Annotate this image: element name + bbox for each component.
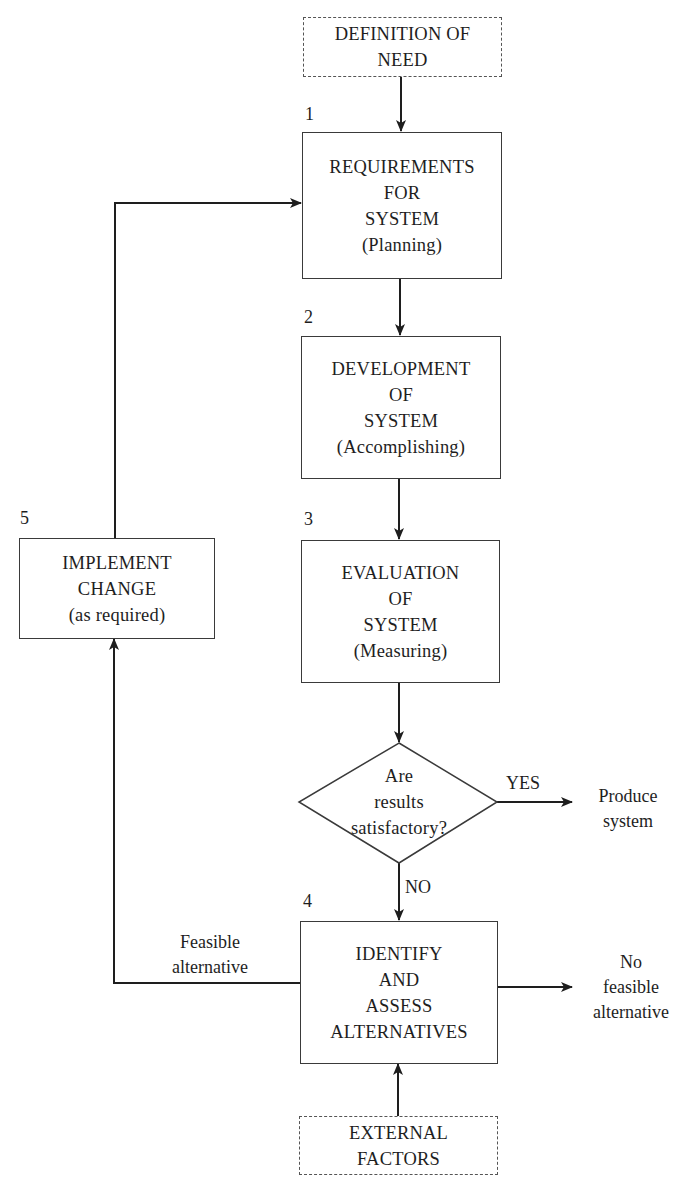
node-text: OF bbox=[388, 586, 412, 612]
node-text: FACTORS bbox=[357, 1146, 440, 1172]
node-text: SYSTEM bbox=[363, 612, 437, 638]
identify-alternatives-box: IDENTIFY AND ASSESS ALTERNATIVES bbox=[300, 921, 498, 1064]
node-text: results bbox=[374, 789, 424, 815]
label-line: system bbox=[580, 809, 676, 834]
node-text: SYSTEM bbox=[364, 408, 438, 434]
no-label: NO bbox=[405, 875, 431, 900]
external-factors-box: EXTERNAL FACTORS bbox=[299, 1116, 498, 1175]
feasible-alternative-label: Feasible alternative bbox=[155, 930, 265, 980]
no-feasible-alternative-label: No feasible alternative bbox=[576, 950, 686, 1025]
step-number-2: 2 bbox=[304, 307, 313, 328]
node-text: ALTERNATIVES bbox=[330, 1019, 467, 1045]
node-text: (Measuring) bbox=[354, 638, 448, 664]
label-line: Feasible bbox=[155, 930, 265, 955]
node-text: EXTERNAL bbox=[349, 1120, 448, 1146]
node-text: NEED bbox=[377, 47, 427, 73]
node-text: satisfactory? bbox=[351, 815, 447, 841]
node-text: (as required) bbox=[69, 602, 166, 628]
node-text: IDENTIFY bbox=[356, 941, 443, 967]
label-line: feasible bbox=[576, 975, 686, 1000]
label-line: alternative bbox=[576, 1000, 686, 1025]
node-text: FOR bbox=[384, 180, 421, 206]
arrow-implement-to-requirements bbox=[115, 203, 301, 538]
yes-label: YES bbox=[506, 771, 540, 796]
node-text: Are bbox=[385, 763, 413, 789]
requirements-box: REQUIREMENTS FOR SYSTEM (Planning) bbox=[302, 132, 502, 279]
node-text: REQUIREMENTS bbox=[329, 154, 474, 180]
node-text: (Accomplishing) bbox=[337, 434, 465, 460]
label-line: alternative bbox=[155, 955, 265, 980]
produce-system-label: Produce system bbox=[580, 784, 676, 834]
node-text: DEFINITION OF bbox=[335, 21, 471, 47]
label-line: Produce bbox=[580, 784, 676, 809]
step-number-3: 3 bbox=[304, 509, 313, 530]
node-text: CHANGE bbox=[78, 576, 156, 602]
definition-of-need-box: DEFINITION OF NEED bbox=[303, 17, 502, 77]
node-text: (Planning) bbox=[362, 232, 442, 258]
node-text: OF bbox=[389, 382, 413, 408]
node-text: EVALUATION bbox=[342, 560, 460, 586]
label-line: No bbox=[576, 950, 686, 975]
node-text: AND bbox=[379, 967, 420, 993]
node-text: IMPLEMENT bbox=[62, 550, 172, 576]
decision-text: Are results satisfactory? bbox=[309, 763, 489, 841]
node-text: ASSESS bbox=[365, 993, 432, 1019]
step-number-4: 4 bbox=[303, 891, 312, 912]
step-number-5: 5 bbox=[20, 508, 29, 529]
evaluation-box: EVALUATION OF SYSTEM (Measuring) bbox=[301, 540, 500, 683]
step-number-1: 1 bbox=[305, 104, 314, 125]
node-text: SYSTEM bbox=[365, 206, 439, 232]
development-box: DEVELOPMENT OF SYSTEM (Accomplishing) bbox=[301, 336, 501, 479]
implement-change-box: IMPLEMENT CHANGE (as required) bbox=[19, 538, 215, 639]
node-text: DEVELOPMENT bbox=[332, 356, 471, 382]
